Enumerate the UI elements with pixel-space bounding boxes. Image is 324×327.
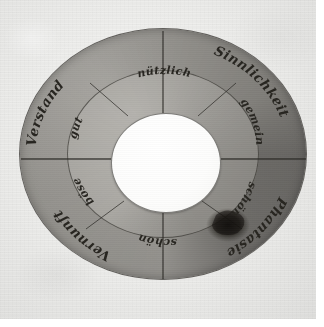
disc-vector-overlay: Verstand Sinnlichkeit Phantasie Vernunft…	[20, 29, 308, 281]
page-margin-bottom	[0, 319, 324, 327]
inner-ring-label-schoen-bottom: schön	[137, 231, 177, 249]
inner-ring-label-gut: gut	[66, 115, 86, 140]
inner-ring-dividers	[86, 83, 242, 229]
inner-ring-label-gemein: gemein	[238, 96, 267, 146]
volvelle-disc[interactable]: Verstand Sinnlichkeit Phantasie Vernunft…	[20, 29, 308, 281]
inner-ring-label-nuetzlich: nützlich	[136, 64, 193, 81]
inner-divider-ne	[198, 83, 236, 116]
outer-ring-label-vernunft: Vernunft	[49, 207, 113, 265]
outer-ring-label-verstand: Verstand	[23, 76, 67, 147]
inner-divider-sw	[86, 201, 124, 229]
photograph-of-volvelle: Verstand Sinnlichkeit Phantasie Vernunft…	[0, 0, 324, 327]
page-margin-right	[316, 0, 324, 327]
inner-ring-label-boese: böse	[69, 176, 96, 209]
inner-divider-nw	[90, 83, 128, 116]
